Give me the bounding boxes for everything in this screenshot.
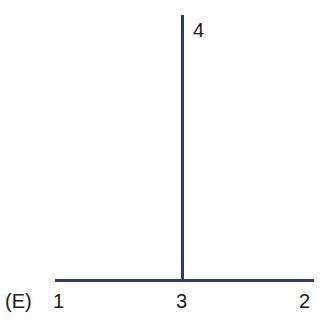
node-label-3: 3: [176, 291, 187, 311]
node-label-2: 2: [299, 291, 310, 311]
horizontal-line-1-2: [55, 279, 314, 282]
panel-label: (E): [5, 291, 32, 311]
node-label-4: 4: [193, 20, 204, 40]
node-label-1: 1: [53, 291, 64, 311]
diagram: (E) 1 3 2 4: [0, 0, 334, 334]
vertical-line-3-4: [181, 15, 184, 281]
